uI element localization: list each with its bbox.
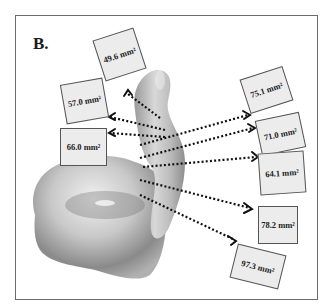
arrow-head-8 <box>228 236 236 245</box>
cross-section-label: 66.0 mm² <box>67 142 101 152</box>
cross-section-box-66-0: 66.0 mm² <box>60 128 107 166</box>
cross-section-label: 49.6 mm² <box>102 45 137 65</box>
cross-section-label: 78.2 mm² <box>261 220 295 230</box>
cross-section-box-64-1: 64.1 mm² <box>258 150 307 195</box>
arrow-head-5 <box>248 124 255 132</box>
cross-section-label: 64.1 mm² <box>265 167 299 179</box>
cross-section-box-57-0: 57.0 mm² <box>60 78 109 125</box>
cross-section-label: 75.1 mm² <box>249 80 284 100</box>
arrow-head-7 <box>244 203 252 213</box>
cross-section-label: 71.0 mm² <box>263 126 298 143</box>
cross-section-label: 97.3 mm² <box>240 258 275 276</box>
cross-section-box-78-2: 78.2 mm² <box>258 206 298 244</box>
cross-section-label: 57.0 mm² <box>67 93 102 109</box>
